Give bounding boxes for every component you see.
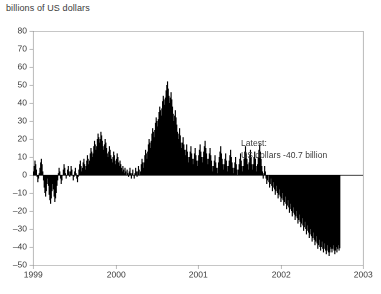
latest-annotation-value: US dollars -40.7 billion [241,150,327,160]
chart-plot-canvas [0,0,381,294]
latest-annotation-label: Latest: [241,138,267,148]
chart-root: billions of US dollars Latest: US dollar… [0,0,381,294]
